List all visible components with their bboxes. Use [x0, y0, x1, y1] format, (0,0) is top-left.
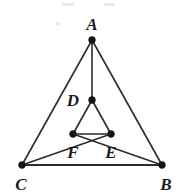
point-label-b: B	[159, 175, 171, 194]
point-dot-e	[108, 131, 115, 138]
geometry-figure: ABCDEF	[0, 0, 176, 194]
point-label-f: F	[66, 143, 79, 162]
scan-speck	[56, 22, 60, 25]
point-label-e: E	[104, 143, 116, 162]
point-dot-f	[70, 131, 77, 138]
scan-speck	[104, 3, 115, 6]
scan-speck	[62, 3, 74, 6]
point-dot-a	[89, 37, 96, 44]
point-label-d: D	[66, 91, 79, 110]
point-label-a: A	[85, 15, 97, 34]
point-dot-b	[159, 162, 166, 169]
point-dot-d	[89, 97, 96, 104]
geometry-canvas: ABCDEF	[0, 0, 176, 194]
point-label-c: C	[15, 175, 27, 194]
point-dot-c	[19, 162, 26, 169]
